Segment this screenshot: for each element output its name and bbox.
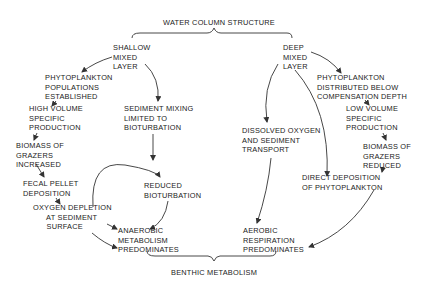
top-brace	[132, 28, 292, 38]
direct-deposition-of-phytoplankton: DIRECT DEPOSITION OF PHYTOPLANKTON	[302, 173, 383, 192]
aerobic-respiration-predominates: AEROBIC RESPIRATION PREDOMINATES	[243, 226, 304, 255]
high-volume-specific-production: HIGH VOLUME SPECIFIC PRODUCTION	[29, 104, 83, 133]
dissolved-oxygen-and-sediment-transport: DISSOLVED OXYGEN AND SEDIMENT TRANSPORT	[242, 126, 321, 155]
benthic-metabolism-title: BENTHIC METABOLISM	[171, 268, 257, 278]
biomass-of-grazers-reduced: BIOMASS OF GRAZERS REDUCED	[363, 142, 411, 171]
biomass-of-grazers-increased: BIOMASS OF GRAZERS INCREASED	[16, 141, 64, 170]
reduced-bioturbation: REDUCED BIOTURBATION	[144, 181, 201, 200]
diagram-canvas: WATER COLUMN STRUCTURE SHALLOW MIXED LAY…	[0, 0, 430, 292]
shallow-mixed-layer: SHALLOW MIXED LAYER	[113, 43, 151, 72]
sediment-mixing-limited-to-bioturbation: SEDIMENT MIXING LIMITED TO BIOTURBATION	[124, 104, 193, 133]
deep-mixed-layer: DEEP MIXED LAYER	[283, 43, 308, 72]
water-column-structure-title: WATER COLUMN STRUCTURE	[163, 18, 275, 28]
low-volume-specific-production: LOW VOLUME SPECIFIC PRODUCTION	[346, 104, 398, 133]
phytoplankton-distributed-below-compensation-depth: PHYTOPLANKTON DISTRIBUTED BELOW COMPENSA…	[317, 73, 407, 102]
oxygen-depletion-at-sediment-surface: OXYGEN DEPLETION AT SEDIMENT SURFACE	[33, 203, 112, 232]
phytoplankton-populations-established: PHYTOPLANKTON POPULATIONS ESTABLISHED	[45, 73, 113, 102]
fecal-pellet-deposition: FECAL PELLET DEPOSITION	[23, 179, 79, 198]
anaerobic-metabolism-predominates: ANAEROBIC METABOLISM PREDOMINATES	[118, 226, 179, 255]
